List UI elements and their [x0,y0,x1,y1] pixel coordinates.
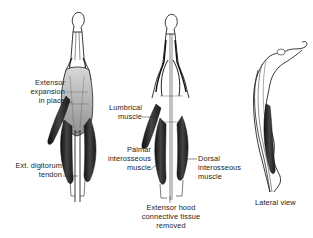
interosseous-muscle-right [84,118,96,182]
panel-dorsal-hood-removed [142,14,197,203]
dorsal-interosseous-muscle [177,116,188,180]
finger-shaft-outline-2 [152,34,189,98]
label-dorsal-interosseous-muscle: Dorsal interosseous muscle [198,155,241,181]
ext-digitorum-tendon [75,130,80,202]
panel-lateral-view [253,41,306,192]
label-lateral-view: Lateral view [255,199,296,208]
label-ext-digitorum-tendon: Ext. digitorum tendon [15,162,62,180]
label-lumbrical-muscle: Lumbrical muscle [109,104,142,122]
lateral-finger-outline [253,41,306,192]
label-extensor-expansion: Extensor expansion in place [30,79,65,105]
label-palmar-interosseous-muscle: Palmar interosseous muscle [108,146,151,172]
distal-phalanx-outline [72,12,84,32]
label-extensor-hood-removed: Extensor hood connective tissue removed [130,204,212,230]
palmar-interosseous-muscle [155,118,166,184]
distal-phalanx-outline-2 [165,14,177,34]
interosseous-muscle-left [61,120,74,184]
